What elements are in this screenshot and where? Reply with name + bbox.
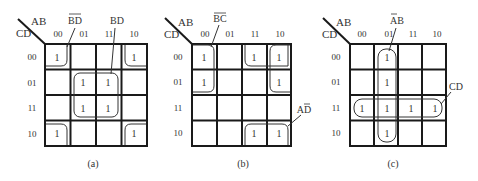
kmap-grid [350, 44, 446, 146]
row-label: 11 [332, 103, 341, 113]
cell-value: 1 [81, 77, 86, 88]
group-label-bd-bar: BD [68, 15, 82, 26]
col-label: 11 [105, 29, 114, 39]
cell-value: 1 [252, 52, 257, 63]
row-label: 00 [28, 52, 38, 62]
col-var-label: AB [31, 15, 46, 27]
cell-value: 1 [385, 77, 390, 88]
row-label: 00 [174, 52, 184, 62]
cell-value: 1 [132, 128, 137, 139]
row-var-label: CD [16, 27, 31, 39]
row-label: 10 [174, 128, 184, 138]
kmap-figure: AB CD 00 01 11 10 00 01 11 10 1 1 1 [0, 0, 478, 181]
row-var-label: CD [322, 28, 337, 40]
cell-value: 1 [106, 103, 111, 114]
cell-value: 1 [55, 52, 60, 63]
caption-a: (a) [87, 158, 98, 170]
cell-value: 1 [433, 103, 438, 114]
col-label: 01 [226, 29, 235, 39]
col-label: 00 [54, 29, 64, 39]
cell-value: 1 [277, 128, 282, 139]
col-label: 00 [358, 29, 368, 39]
cell-value: 1 [81, 103, 86, 114]
caption-c: (c) [387, 158, 398, 170]
group-label-cd: CD [449, 81, 463, 92]
cell-value: 1 [106, 77, 111, 88]
cell-value: 1 [277, 52, 282, 63]
col-label: 10 [433, 29, 443, 39]
cell-value: 1 [360, 103, 365, 114]
cell-value: 1 [277, 77, 282, 88]
row-label: 01 [28, 78, 37, 88]
row-label: 11 [174, 103, 183, 113]
col-label: 01 [385, 29, 394, 39]
cell-value: 1 [202, 52, 207, 63]
cell-value: 1 [252, 128, 257, 139]
col-label: 00 [201, 29, 211, 39]
cell-value: 1 [409, 103, 414, 114]
col-label: 11 [251, 29, 260, 39]
col-label: 10 [276, 29, 286, 39]
col-var-label: AB [178, 16, 193, 28]
kmap-a: AB CD 00 01 11 10 00 01 11 10 1 1 1 [16, 14, 147, 170]
row-label: 11 [28, 103, 37, 113]
row-label: 01 [174, 77, 183, 87]
kmap-c: AB CD 00 01 11 10 00 01 11 10 1 1 1 [322, 14, 463, 170]
col-var-label: AB [336, 16, 351, 28]
cell-value: 1 [385, 103, 390, 114]
cell-value: 1 [55, 128, 60, 139]
row-label: 10 [332, 128, 342, 138]
caption-b: (b) [237, 158, 249, 170]
cell-value: 1 [202, 77, 207, 88]
group-label-ad-bar: AD [297, 104, 311, 115]
group-label-bd: BD [110, 15, 124, 26]
kmap-b: AB CD 00 01 11 10 00 01 11 10 1 1 1 1 1 [164, 13, 311, 170]
cell-value: 1 [385, 52, 390, 63]
group-label-a-bar-b: AB [390, 15, 404, 26]
row-label: 01 [332, 77, 341, 87]
col-label: 11 [409, 29, 418, 39]
row-label: 00 [332, 52, 342, 62]
group-label-bc-bar: BC [213, 13, 227, 24]
col-label: 10 [130, 29, 140, 39]
cell-value: 1 [385, 128, 390, 139]
row-label: 10 [28, 129, 38, 139]
col-label: 01 [80, 29, 89, 39]
row-var-label: CD [164, 28, 179, 40]
cell-value: 1 [132, 52, 137, 63]
